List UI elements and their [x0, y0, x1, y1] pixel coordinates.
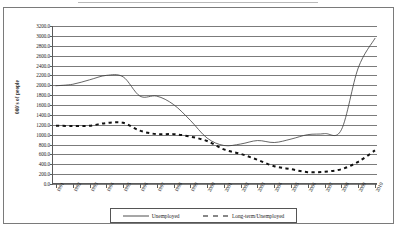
chart-outer-frame: 000's of people 3200.03000.02800.02600.0…: [3, 7, 394, 224]
y-axis-tick-label: 1400.0: [26, 112, 50, 118]
legend-item-long-term-unemployed: Long-term/Unemployed: [203, 213, 284, 219]
y-axis-tick-label: 2800.0: [26, 43, 50, 49]
y-axis-tick-label: 2400.0: [26, 63, 50, 69]
legend-label-long-term-unemployed: Long-term/Unemployed: [232, 213, 284, 219]
chart-figure: 000's of people 3200.03000.02800.02600.0…: [0, 0, 397, 228]
y-axis-tick-label: 0.0: [26, 181, 50, 187]
legend-label-unemployed: Unemployed: [152, 213, 180, 219]
solid-line-swatch-icon: [123, 213, 149, 219]
series-line-unemployed: [56, 38, 375, 145]
series-lines-group: [53, 26, 378, 184]
y-axis-tick-label: 200.0: [26, 171, 50, 177]
y-axis-tick-label: 600.0: [26, 151, 50, 157]
y-axis-tick-label: 1800.0: [26, 92, 50, 98]
y-axis-tick-label: 400.0: [26, 161, 50, 167]
y-axis-tick-label: 2600.0: [26, 53, 50, 59]
series-line-long-term-unemployed: [56, 122, 375, 172]
legend-item-unemployed: Unemployed: [123, 213, 180, 219]
top-rule-divider: [78, 2, 318, 3]
y-axis-tick-label: 1000.0: [26, 132, 50, 138]
y-axis-title: 000's of people: [14, 62, 20, 132]
plot-area: 3200.03000.02800.02600.02400.02200.02000…: [52, 26, 377, 184]
y-axis-tick-label: 3000.0: [26, 33, 50, 39]
y-axis-tick-mark: [50, 184, 53, 185]
y-axis-tick-label: 2000.0: [26, 82, 50, 88]
y-axis-tick-label: 1600.0: [26, 102, 50, 108]
y-axis-tick-label: 3200.0: [26, 23, 50, 29]
y-axis-tick-label: 2200.0: [26, 72, 50, 78]
y-axis-tick-label: 1200.0: [26, 122, 50, 128]
dashed-line-swatch-icon: [203, 213, 229, 219]
y-axis-tick-label: 800.0: [26, 142, 50, 148]
chart-legend: Unemployed Long-term/Unemployed: [110, 208, 297, 223]
